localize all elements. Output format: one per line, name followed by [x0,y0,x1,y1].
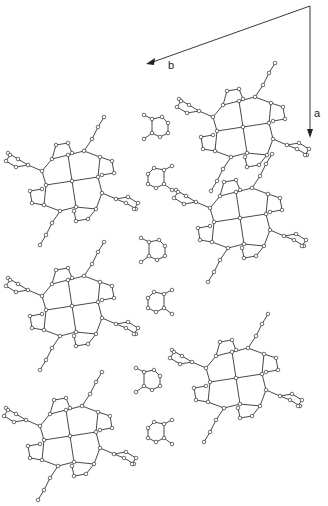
packing-diagram: b a [0,0,328,506]
unit-cell-axes: b a [146,6,321,138]
small-molecules [134,113,174,446]
large-molecules [2,61,311,502]
a-axis-label: a [314,107,321,119]
b-axis-arrow [150,6,310,63]
b-axis-label: b [168,59,174,71]
